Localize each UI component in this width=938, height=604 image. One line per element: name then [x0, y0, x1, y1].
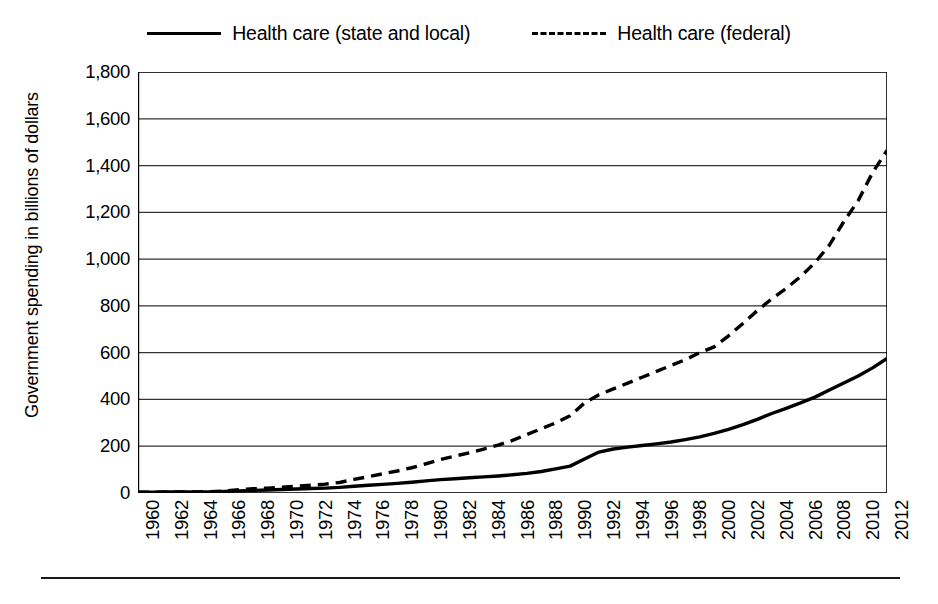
x-axis-tick-label: 1998 [691, 500, 710, 560]
x-axis-tick-label: 1966 [230, 500, 249, 560]
x-axis-tick-label: 1970 [288, 500, 307, 560]
x-axis-tick-label: 1964 [202, 500, 221, 560]
x-axis-tick-label: 2010 [864, 500, 883, 560]
x-axis-tick-label: 1988 [547, 500, 566, 560]
x-axis-tick-label: 1976 [374, 500, 393, 560]
x-axis-tick-label: 1980 [432, 500, 451, 560]
x-axis-tick-label: 2000 [720, 500, 739, 560]
x-axis-tick-label: 1992 [605, 500, 624, 560]
x-axis-tick-label: 1972 [317, 500, 336, 560]
series-line-state-local [138, 359, 887, 493]
x-axis-tick-label: 2002 [749, 500, 768, 560]
plot-area [138, 72, 887, 493]
x-axis-tick-label: 1986 [519, 500, 538, 560]
x-axis-tick-label: 1974 [346, 500, 365, 560]
series-line-federal [138, 150, 887, 492]
x-axis-tick-label: 2012 [893, 500, 912, 560]
x-axis-tick-label: 1960 [144, 500, 163, 560]
x-axis-tick-label: 1996 [663, 500, 682, 560]
x-axis-tick-label: 2004 [778, 500, 797, 560]
footer-divider [41, 577, 900, 579]
x-axis-tick-label: 2008 [835, 500, 854, 560]
chart-lines [138, 72, 887, 493]
x-axis-tick-label: 1978 [403, 500, 422, 560]
x-axis-tick-label: 1982 [461, 500, 480, 560]
x-axis-tick-label: 1962 [173, 500, 192, 560]
x-axis-tick-label: 2006 [807, 500, 826, 560]
x-axis-tick-label: 1968 [259, 500, 278, 560]
x-axis-tick-label: 1984 [490, 500, 509, 560]
x-axis-tick-label: 1994 [634, 500, 653, 560]
x-axis-tick-label: 1990 [576, 500, 595, 560]
